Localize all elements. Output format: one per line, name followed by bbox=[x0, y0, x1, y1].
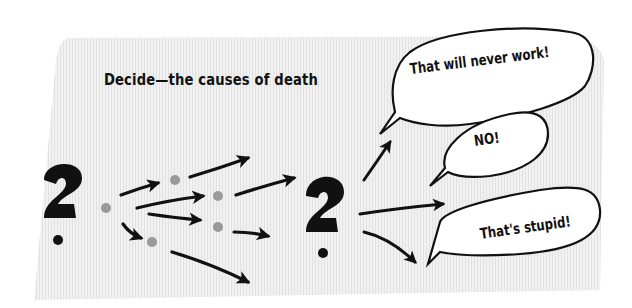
node bbox=[101, 203, 111, 213]
node bbox=[170, 175, 180, 185]
diagram-canvas: Decide—the causes of death That will nev… bbox=[0, 0, 632, 308]
node bbox=[213, 191, 223, 201]
node bbox=[213, 222, 223, 232]
node bbox=[147, 237, 157, 247]
diagram-title: Decide—the causes of death bbox=[104, 70, 318, 89]
reaction-text-2: NO! bbox=[473, 129, 501, 150]
